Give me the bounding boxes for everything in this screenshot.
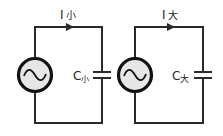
current-label: I小 <box>60 8 76 22</box>
circuit-small: I小 C小 <box>19 8 112 123</box>
ac-source-icon <box>119 59 152 92</box>
circuit-large: I大 C大 <box>119 8 213 123</box>
current-arrow-icon <box>167 23 175 31</box>
circuit-diagram: I小 C小 <box>0 0 223 136</box>
capacitor-icon <box>194 72 212 78</box>
capacitor-label: C小 <box>73 69 89 84</box>
capacitor-label: C大 <box>172 69 189 84</box>
current-arrow-icon <box>66 23 74 31</box>
ac-source-icon <box>19 59 52 92</box>
current-label: I大 <box>162 8 178 22</box>
capacitor-icon <box>93 72 111 78</box>
